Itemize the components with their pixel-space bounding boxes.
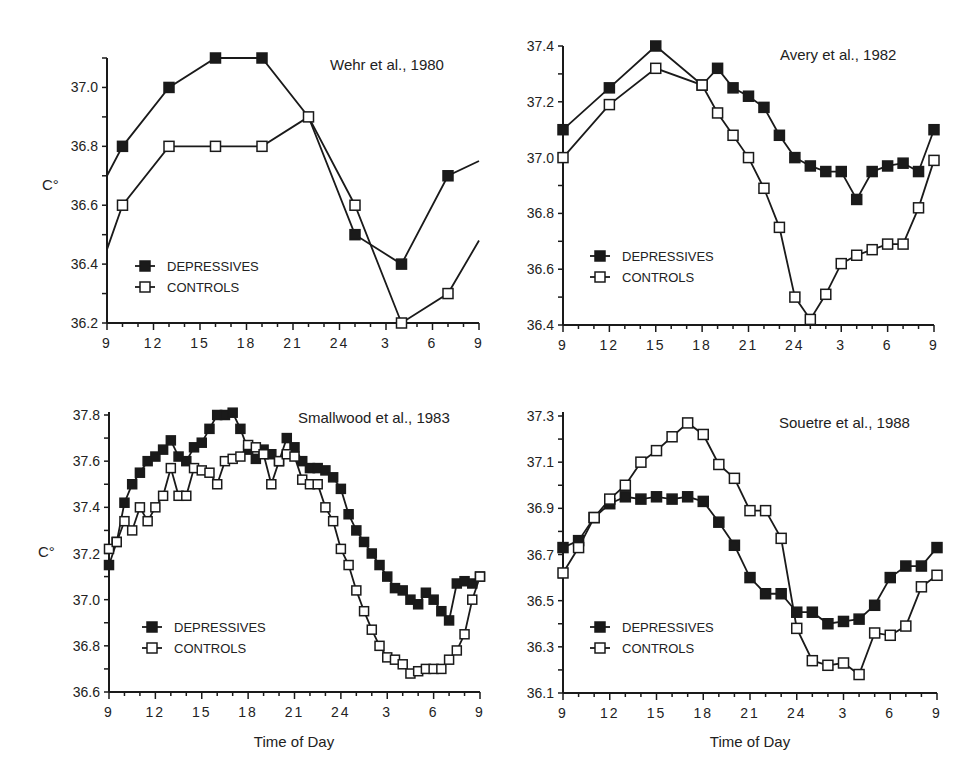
marker-open-square: [558, 153, 568, 163]
legend-label-depressives: DEPRESSIVES: [622, 620, 714, 635]
marker-open-square: [460, 630, 469, 639]
y-tick-label: 36.6: [527, 261, 554, 277]
marker-filled-square: [759, 102, 769, 112]
marker-open-square: [916, 582, 926, 592]
marker-open-square: [885, 630, 895, 640]
marker-filled-square: [604, 83, 614, 93]
marker-open-square: [667, 432, 677, 442]
marker-filled-square: [118, 141, 128, 151]
marker-open-square: [360, 607, 369, 616]
marker-open-square: [213, 480, 222, 489]
marker-filled-square: [620, 492, 630, 502]
y-tick-label: 37.3: [527, 408, 554, 424]
legend: DEPRESSIVESCONTROLS: [590, 249, 714, 285]
x-tick-label: 3: [839, 705, 849, 721]
marker-filled-square: [916, 561, 926, 571]
marker-filled-square: [898, 158, 908, 168]
y-tick-label: 37.0: [73, 592, 100, 608]
chart-title: Souetre et al., 1988: [779, 414, 910, 431]
marker-open-square: [745, 506, 755, 516]
marker-open-square: [651, 63, 661, 73]
legend: DEPRESSIVESCONTROLS: [590, 620, 714, 656]
legend-label-controls: CONTROLS: [167, 280, 240, 295]
marker-filled-square: [870, 600, 880, 610]
marker-open-square: [159, 491, 168, 500]
chart-panel-smallwood-1983: 36.636.837.037.237.437.637.8912151821243…: [38, 407, 485, 750]
marker-filled-square: [128, 480, 137, 489]
marker-open-square: [443, 289, 453, 299]
marker-filled-square: [443, 171, 453, 181]
legend-label-depressives: DEPRESSIVES: [174, 620, 266, 635]
x-tick-label: 3: [382, 704, 392, 720]
marker-open-square: [652, 446, 662, 456]
marker-open-square: [713, 108, 723, 118]
x-tick-label: 18: [693, 705, 713, 721]
x-tick-label: 6: [429, 704, 439, 720]
marker-filled-square: [883, 161, 893, 171]
x-tick-label: 9: [475, 704, 485, 720]
marker-open-square: [367, 625, 376, 634]
x-tick-label: 3: [836, 337, 846, 353]
series-line-controls: [563, 423, 937, 675]
marker-open-square: [790, 292, 800, 302]
figure-caption-cutoff: [38, 770, 938, 777]
marker-filled-square: [652, 492, 662, 502]
marker-filled-square: [367, 549, 376, 558]
marker-filled-square: [360, 537, 369, 546]
x-tick-label: 24: [785, 337, 805, 353]
marker-filled-square: [790, 153, 800, 163]
x-tick-label: 9: [474, 335, 484, 351]
marker-open-square: [883, 239, 893, 249]
y-tick-label: 36.5: [527, 593, 554, 609]
chart-title: Wehr et al., 1980: [330, 56, 444, 73]
marker-open-square: [336, 544, 345, 553]
marker-filled-square: [257, 53, 267, 63]
marker-open-square: [205, 468, 214, 477]
y-tick-label: 36.6: [73, 684, 100, 700]
marker-open-square: [714, 459, 724, 469]
marker-filled-square: [867, 167, 877, 177]
marker-open-square: [839, 658, 849, 668]
x-tick-label: 21: [283, 335, 303, 351]
y-tick-label: 37.4: [527, 38, 554, 54]
marker-open-square: [112, 537, 121, 546]
marker-filled-square: [350, 230, 360, 240]
marker-open-square: [313, 480, 322, 489]
marker-open-square: [929, 155, 939, 165]
y-tick-label: 36.9: [527, 500, 554, 516]
y-tick-label: 37.4: [73, 499, 100, 515]
marker-open-square: [729, 473, 739, 483]
marker-filled-square: [120, 498, 129, 507]
marker-filled-square: [397, 259, 407, 269]
marker-filled-square: [105, 561, 114, 570]
y-tick-label: 36.8: [527, 205, 554, 221]
marker-open-square: [574, 543, 584, 553]
marker-open-square: [821, 289, 831, 299]
marker-open-square: [620, 480, 630, 490]
x-tick-label: 15: [647, 705, 667, 721]
legend-open-square-icon: [595, 272, 605, 282]
chart-title: Avery et al., 1982: [780, 46, 896, 63]
legend-filled-square-icon: [140, 261, 150, 271]
marker-filled-square: [375, 561, 384, 570]
y-tick-label: 36.8: [73, 638, 100, 654]
x-tick-label: 18: [238, 704, 258, 720]
marker-open-square: [290, 452, 299, 461]
legend-filled-square-icon: [595, 251, 605, 261]
series-line-controls: [109, 445, 480, 674]
legend-label-controls: CONTROLS: [622, 641, 695, 656]
marker-filled-square: [236, 424, 245, 433]
legend-open-square-icon: [147, 643, 157, 653]
marker-open-square: [698, 429, 708, 439]
marker-filled-square: [805, 161, 815, 171]
marker-open-square: [854, 670, 864, 680]
marker-open-square: [932, 570, 942, 580]
x-tick-label: 21: [739, 337, 759, 353]
marker-open-square: [867, 245, 877, 255]
x-tick-label: 24: [330, 335, 350, 351]
x-tick-label: 15: [190, 335, 210, 351]
x-tick-label: 15: [646, 337, 666, 353]
marker-filled-square: [383, 572, 392, 581]
marker-filled-square: [744, 91, 754, 101]
y-axis-title: C°: [38, 543, 55, 560]
